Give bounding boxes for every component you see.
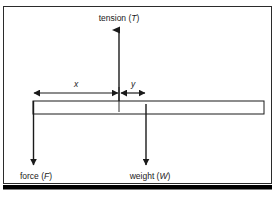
tension-label-prefix: tension ( [99,13,132,23]
weight-label-prefix: weight ( [129,171,160,181]
horizontal-beam [33,101,264,114]
distance-y-label: y [130,79,136,89]
force-label-suffix: ) [49,171,52,181]
tension-label: tension (T) [99,13,140,23]
force-label-prefix: force ( [20,171,44,181]
figure-background [0,0,279,200]
distance-x-label: x [73,79,79,89]
figure-bottom-bar [3,185,272,190]
diagram-canvas: tension (T) x y force (F) weight (W) [0,0,279,200]
weight-label: weight (W) [129,171,171,181]
free-body-diagram-figure: tension (T) x y force (F) weight (W) [0,0,279,200]
tension-label-suffix: ) [136,13,139,23]
force-label: force (F) [20,171,52,181]
weight-label-suffix: ) [167,171,170,181]
